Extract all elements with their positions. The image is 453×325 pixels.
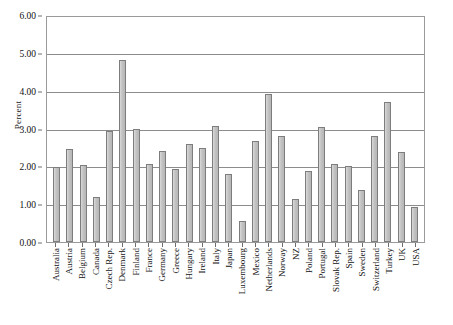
x-axis-tick-mark <box>268 243 269 247</box>
y-axis-tick-mark <box>38 91 42 92</box>
x-label-slot: Sweden <box>356 248 369 325</box>
x-axis-category-label: France <box>144 248 153 273</box>
x-axis-tick-mark <box>322 243 323 247</box>
x-axis-tick-mark <box>242 243 243 247</box>
y-axis-tick-mark <box>38 167 42 168</box>
bar-slot <box>249 17 262 242</box>
x-label-slot: Japan <box>222 248 235 325</box>
x-axis-category-label: Slovak Rep. <box>331 248 340 292</box>
x-axis-category-label: Canada <box>91 248 100 275</box>
bar-slot <box>381 17 394 242</box>
x-axis-category-label: Germany <box>158 248 167 282</box>
x-axis-tick-mark <box>68 243 69 247</box>
x-axis-category-label: Sweden <box>358 248 367 277</box>
x-axis-tick-mark <box>108 243 109 247</box>
x-label-slot: Slovak Rep. <box>329 248 342 325</box>
bar-slot <box>156 17 169 242</box>
bar <box>292 199 299 243</box>
bar <box>345 166 352 242</box>
x-axis-category-label: USA <box>411 248 420 266</box>
y-axis-tick-mark <box>38 205 42 206</box>
x-axis-category-label: Denmark <box>118 248 127 282</box>
x-label-slot: Luxembourg <box>236 248 249 325</box>
x-label-slot: Germany <box>156 248 169 325</box>
bar <box>53 167 60 242</box>
x-axis-tick-mark <box>348 243 349 247</box>
x-axis-category-label: Italy <box>211 248 220 265</box>
y-axis-tick-label: 0.00 <box>19 238 36 248</box>
bar-slot <box>50 17 63 242</box>
bar <box>318 127 325 242</box>
x-label-slot: USA <box>409 248 422 325</box>
x-label-slot: Poland <box>302 248 315 325</box>
bar <box>93 197 100 242</box>
x-axis-tick-mark <box>95 243 96 247</box>
x-label-slot: Norway <box>276 248 289 325</box>
bar-slot <box>183 17 196 242</box>
x-axis-category-label: Norway <box>278 248 287 277</box>
bar <box>106 131 113 242</box>
bar <box>172 169 179 242</box>
x-axis-tick-mark <box>215 243 216 247</box>
y-axis-tick-mark <box>38 243 42 244</box>
x-axis-tick-mark <box>122 243 123 247</box>
x-label-slot: Netherlands <box>262 248 275 325</box>
x-axis-tick-mark <box>202 243 203 247</box>
bar <box>331 164 338 242</box>
x-axis-category-label: Switzerland <box>371 248 380 291</box>
bar <box>186 144 193 242</box>
x-axis-tick-mark <box>148 243 149 247</box>
bar-slot <box>130 17 143 242</box>
bar <box>159 151 166 242</box>
y-axis-tick-label: 6.00 <box>19 11 36 21</box>
x-axis-tick-mark <box>282 243 283 247</box>
x-axis-tick-mark <box>308 243 309 247</box>
x-axis-tick-mark <box>175 243 176 247</box>
x-label-slot: NZ <box>289 248 302 325</box>
x-axis-category-label: NZ <box>291 248 300 260</box>
x-axis-category-label: Australia <box>51 248 60 281</box>
x-label-slot: Belgium <box>76 248 89 325</box>
bar-slot <box>315 17 328 242</box>
y-axis-tick-mark <box>38 129 42 130</box>
bar-slot <box>63 17 76 242</box>
bar-slot <box>395 17 408 242</box>
bar <box>358 190 365 242</box>
x-axis-tick-mark <box>228 243 229 247</box>
bar <box>278 136 285 242</box>
x-label-slot: Australia <box>49 248 62 325</box>
x-axis-category-label: Hungary <box>184 248 193 280</box>
x-axis-tick-mark <box>55 243 56 247</box>
x-axis-category-label: Luxembourg <box>238 248 247 294</box>
x-label-slot: Finland <box>129 248 142 325</box>
bar-slot <box>77 17 90 242</box>
bar-chart: Percent 0.001.002.003.004.005.006.00 Aus… <box>0 0 453 325</box>
bar-slot <box>116 17 129 242</box>
bar-slot <box>355 17 368 242</box>
bar <box>411 207 418 242</box>
plot-area <box>46 16 425 243</box>
bars-container <box>47 17 424 242</box>
bar-slot <box>143 17 156 242</box>
y-axis-tick-label: 4.00 <box>19 87 36 97</box>
x-axis-category-label: Poland <box>304 248 313 273</box>
x-axis-category-label: Turkey <box>384 248 393 274</box>
bar-slot <box>262 17 275 242</box>
bar <box>252 141 259 242</box>
bar <box>225 174 232 242</box>
x-label-slot: Czech Rep. <box>102 248 115 325</box>
x-axis-tick-mark <box>295 243 296 247</box>
y-axis-tick-label: 5.00 <box>19 49 36 59</box>
bar <box>398 152 405 242</box>
y-axis-tick-mark <box>38 53 42 54</box>
x-axis-tick-mark <box>362 243 363 247</box>
x-axis-tick-mark <box>402 243 403 247</box>
bar <box>384 102 391 242</box>
bar-slot <box>342 17 355 242</box>
bar <box>80 165 87 242</box>
bar-slot <box>209 17 222 242</box>
x-axis-category-label: Mexico <box>251 248 260 276</box>
bar-slot <box>222 17 235 242</box>
bar <box>305 171 312 242</box>
x-label-slot: Switzerland <box>369 248 382 325</box>
